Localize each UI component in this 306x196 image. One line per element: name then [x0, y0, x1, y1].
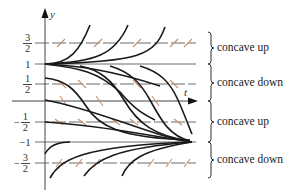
region-label-concave-up-lower: concave up	[217, 115, 269, 127]
tick-label-3-2: 32	[22, 33, 32, 54]
y-axis-label: y	[50, 8, 55, 20]
slope-field-figure: y t 32 1 12 − 12 −1 − 32 concave up conc…	[0, 0, 306, 196]
tick-label-1: 1	[25, 59, 31, 70]
concavity-braces	[208, 32, 214, 178]
slope-field-plot	[0, 0, 306, 196]
t-axis-label: t	[184, 86, 187, 98]
region-label-concave-down-upper: concave down	[217, 76, 283, 88]
tick-label-1-2: 12	[22, 74, 32, 95]
tick-label-neg-1: −1	[19, 137, 31, 148]
region-label-concave-up-top: concave up	[217, 41, 269, 53]
t-axis	[12, 98, 198, 105]
tick-label-neg-3-2: − 32	[14, 153, 30, 174]
region-label-concave-down-bottom: concave down	[217, 153, 283, 165]
tick-label-neg-1-2: − 12	[14, 112, 30, 133]
